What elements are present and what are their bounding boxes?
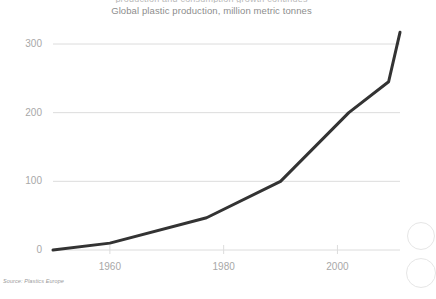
cropped-circle-mark-lower	[406, 258, 436, 288]
cropped-circle-mark-upper	[407, 222, 435, 250]
y-axis-tick-label: 0	[8, 245, 42, 255]
source-note: Source: Plastics Europe	[3, 278, 64, 284]
y-gridlines	[53, 44, 400, 250]
y-axis-tick-label: 200	[8, 108, 42, 118]
y-axis-tick-label: 100	[8, 176, 42, 186]
data-line-global-plastic-production	[53, 32, 400, 250]
y-axis-tick-label: 300	[8, 39, 42, 49]
x-axis-tick-label: 2000	[314, 262, 360, 272]
x-axis-tick-label: 1980	[201, 262, 247, 272]
x-axis-tick-label: 1960	[87, 262, 133, 272]
